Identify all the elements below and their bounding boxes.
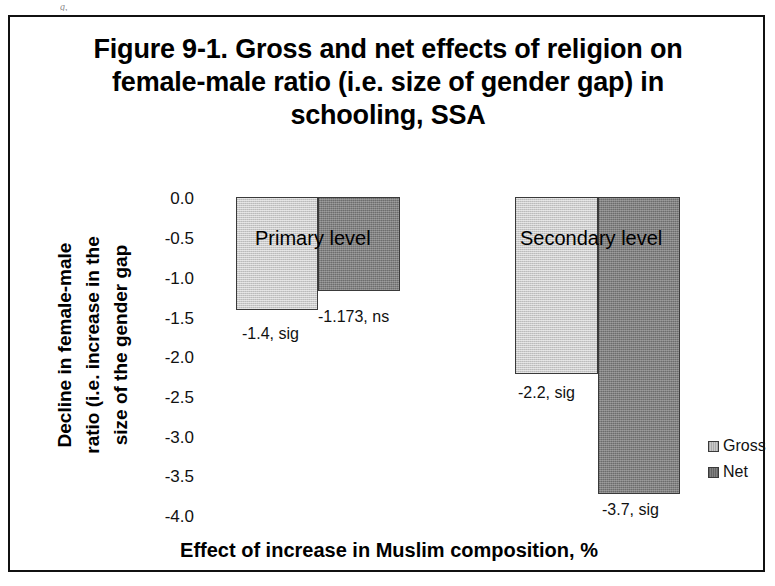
y-tick-6: -3.0 — [134, 429, 194, 446]
y-tick-2: -1.0 — [134, 270, 194, 287]
group-label-secondary: Secondary level — [520, 228, 662, 248]
scan-artifact-text: g, — [60, 2, 190, 11]
bar-secondary-gross[interactable] — [515, 197, 598, 374]
legend-swatch-gross-icon — [708, 441, 719, 452]
y-tick-8: -4.0 — [134, 508, 194, 525]
legend-label-gross: Gross — [723, 438, 766, 454]
value-label-secondary-net: -3.7, sig — [602, 502, 659, 518]
y-axis-title: Decline in female-male ratio (i.e. incre… — [23, 180, 135, 510]
value-label-primary-net: -1.173, ns — [318, 309, 389, 325]
figure-frame: Figure 9-1. Gross and net effects of rel… — [8, 15, 765, 572]
y-tick-0: 0.0 — [134, 190, 194, 207]
group-label-primary: Primary level — [255, 228, 371, 248]
y-axis-tick-labels: 0.0 -0.5 -1.0 -1.5 -2.0 -2.5 -3.0 -3.5 -… — [128, 197, 194, 515]
y-tick-4: -2.0 — [134, 349, 194, 366]
legend-swatch-net-icon — [708, 467, 719, 478]
y-tick-3: -1.5 — [134, 310, 194, 327]
y-tick-7: -3.5 — [134, 468, 194, 485]
legend-item-net[interactable]: Net — [708, 461, 772, 483]
x-axis-title: Effect of increase in Muslim composition… — [44, 538, 734, 562]
y-tick-5: -2.5 — [134, 389, 194, 406]
plot-area: Primary level Secondary level -1.173, ns… — [198, 197, 685, 515]
y-tick-1: -0.5 — [134, 230, 194, 247]
chart-title: Figure 9-1. Gross and net effects of rel… — [44, 33, 732, 132]
legend-label-net: Net — [723, 464, 748, 480]
legend-item-gross[interactable]: Gross — [708, 435, 772, 457]
bar-primary-gross[interactable] — [236, 197, 318, 310]
legend: Gross Net — [708, 435, 772, 487]
value-label-primary-gross: -1.4, sig — [242, 326, 299, 342]
value-label-secondary-gross: -2.2, sig — [518, 385, 575, 401]
